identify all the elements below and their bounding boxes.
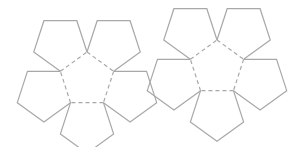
right-flower-fold-line-5 [190,40,217,59]
left-flower-fold-line-3 [87,52,114,71]
pentagon-face-R1 [217,9,270,60]
right-flower-fold-line-1 [217,40,244,59]
faces-layer [17,9,286,147]
pentagon-face-R3 [190,91,243,142]
left-flower-fold-line-4 [103,71,113,102]
dodecahedron-net [0,0,301,147]
pentagon-face-L2 [34,21,87,72]
left-flower-fold-line-1 [60,71,70,102]
pentagon-face-L1 [17,71,70,122]
pentagon-face-R5 [164,9,217,60]
pentagon-face-L3 [87,21,140,72]
right-flower-fold-line-2 [233,59,243,90]
pentagon-face-L5 [60,103,113,147]
left-flower-fold-line-2 [60,52,87,71]
right-flower-fold-line-4 [190,59,200,90]
pentagon-face-R4 [147,59,200,110]
